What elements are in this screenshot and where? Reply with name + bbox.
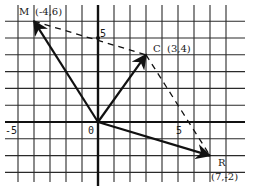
x-axis-label-neg5: -5 (5, 125, 17, 136)
point-label-c-name: C (153, 43, 161, 54)
point-label-m-name: M (19, 6, 29, 17)
coordinate-diagram: 0 -5 5 5 M (-4,6) C (3,4) R (7,-2) (0, 0, 256, 191)
point-label-m-coords: (-4,6) (35, 6, 62, 17)
y-axis-label-5: 5 (100, 28, 106, 39)
point-label-r-coords: (7,-2) (211, 171, 238, 182)
x-axis-label-5: 5 (176, 125, 182, 136)
point-label-r-name: R (218, 157, 226, 168)
origin-label: 0 (88, 125, 94, 136)
point-label-c-coords: (3,4) (167, 43, 191, 54)
